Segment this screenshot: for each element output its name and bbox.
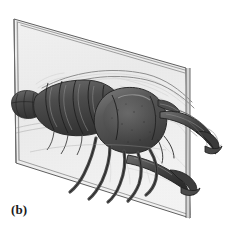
panel-label: (b) (11, 203, 27, 216)
carapace (94, 87, 167, 153)
crayfish-symmetry-illustration (0, 0, 233, 244)
figure-container: (b) (0, 0, 233, 244)
